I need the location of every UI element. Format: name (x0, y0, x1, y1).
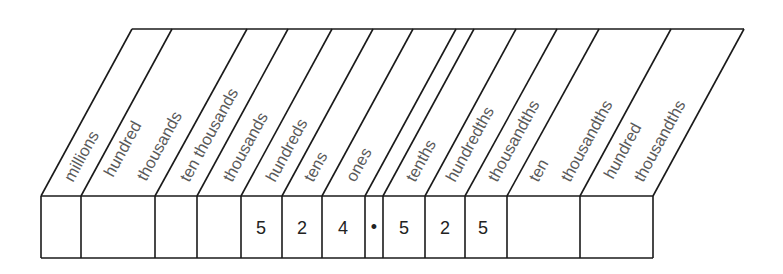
value-thousandths: 5 (478, 218, 488, 238)
value-hundreds: 5 (256, 218, 266, 238)
value-tens: 2 (297, 218, 307, 238)
value-tenths: 5 (399, 218, 409, 238)
label-hundred-thousandths-line2: thousandths (630, 97, 689, 185)
label-tenths: tenths (402, 136, 439, 184)
place-value-chart: millions hundred thousands ten thousands… (0, 0, 783, 274)
value-hundredths: 2 (440, 218, 450, 238)
label-millions: millions (60, 128, 102, 185)
value-ones: 4 (338, 218, 348, 238)
label-ten-thousandths-line1: ten (525, 156, 552, 185)
digit-values: 5 2 4 • 5 2 5 (256, 217, 488, 238)
decimal-point: • (371, 217, 377, 237)
